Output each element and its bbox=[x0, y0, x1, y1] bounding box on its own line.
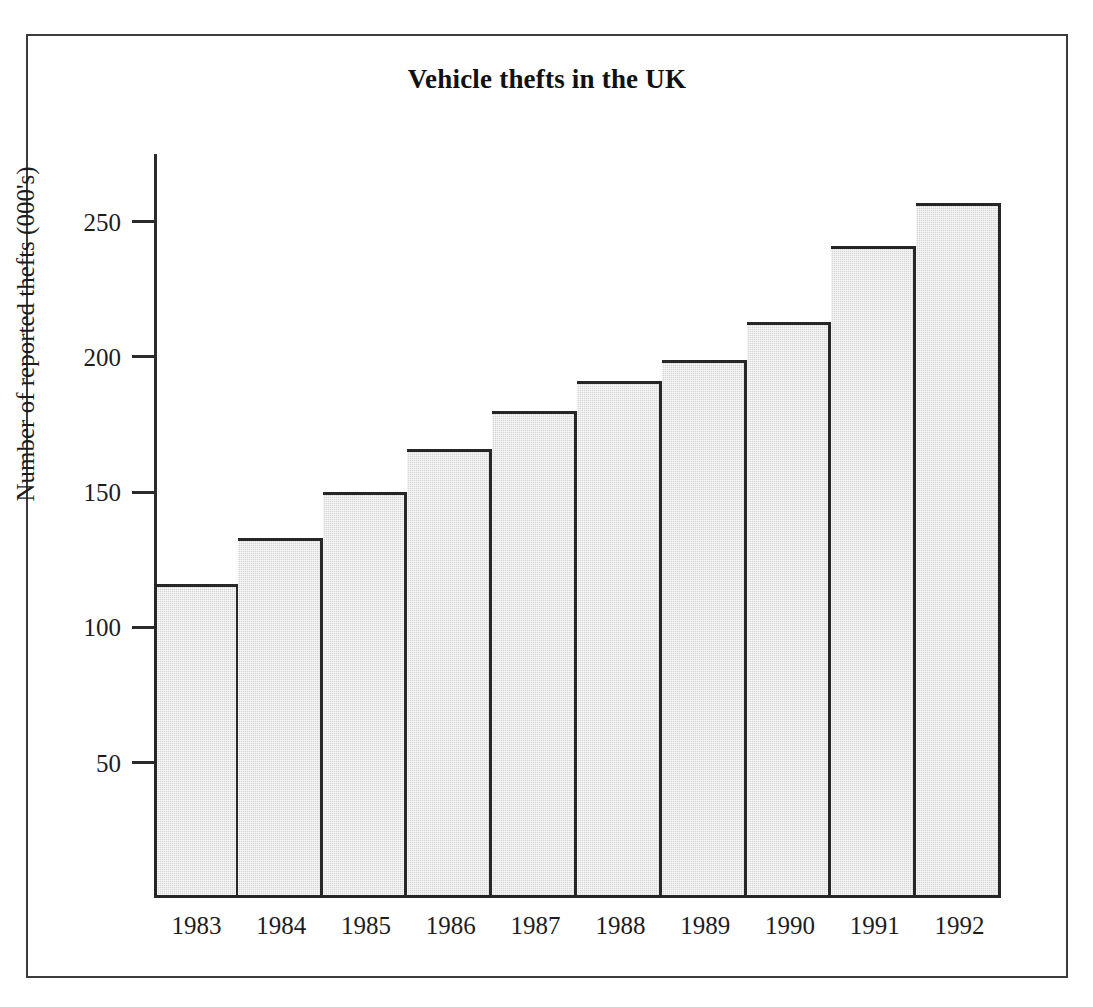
y-tick-250: 250 bbox=[132, 220, 154, 223]
y-tick-label: 250 bbox=[84, 209, 122, 234]
y-tick-100: 100 bbox=[132, 626, 154, 629]
bar-cell bbox=[663, 154, 748, 898]
x-label-1988: 1988 bbox=[578, 912, 663, 940]
x-label-1989: 1989 bbox=[663, 912, 748, 940]
bar-cell bbox=[578, 154, 663, 898]
bar-series bbox=[154, 154, 1002, 898]
y-tick-150: 150 bbox=[132, 491, 154, 494]
y-tick-label: 50 bbox=[96, 750, 121, 775]
bar-1991 bbox=[831, 246, 916, 898]
bar-cell bbox=[324, 154, 409, 898]
chart-frame: Vehicle thefts in the UK 50100150200250 … bbox=[26, 34, 1068, 978]
bar-1986 bbox=[407, 449, 492, 898]
x-label-1987: 1987 bbox=[493, 912, 578, 940]
plot-area: 50100150200250 bbox=[154, 154, 1002, 898]
y-tick-label: 100 bbox=[84, 615, 122, 640]
bar-cell bbox=[239, 154, 324, 898]
y-axis-title: Number of reported thefts (000's) bbox=[12, 24, 40, 644]
y-tick-50: 50 bbox=[132, 761, 154, 764]
x-label-1992: 1992 bbox=[917, 912, 1002, 940]
x-label-1983: 1983 bbox=[154, 912, 239, 940]
y-tick-200: 200 bbox=[132, 355, 154, 358]
bar-cell bbox=[748, 154, 833, 898]
bar-1988 bbox=[577, 381, 662, 898]
x-label-1985: 1985 bbox=[324, 912, 409, 940]
bar-cell bbox=[408, 154, 493, 898]
chart-title: Vehicle thefts in the UK bbox=[28, 64, 1066, 95]
y-tick-label: 200 bbox=[84, 344, 122, 369]
bar-1992 bbox=[916, 203, 1001, 898]
x-label-1991: 1991 bbox=[832, 912, 917, 940]
bar-1983 bbox=[154, 584, 239, 898]
x-label-1990: 1990 bbox=[748, 912, 833, 940]
bar-cell bbox=[493, 154, 578, 898]
bar-cell bbox=[154, 154, 239, 898]
bar-1987 bbox=[492, 411, 577, 898]
bar-1984 bbox=[238, 538, 323, 898]
bar-1985 bbox=[323, 492, 408, 898]
bar-cell bbox=[917, 154, 1002, 898]
x-label-1984: 1984 bbox=[239, 912, 324, 940]
bar-cell bbox=[832, 154, 917, 898]
x-axis-labels: 1983198419851986198719881989199019911992 bbox=[154, 912, 1002, 940]
bar-1990 bbox=[747, 322, 832, 898]
y-tick-label: 150 bbox=[84, 480, 122, 505]
x-label-1986: 1986 bbox=[408, 912, 493, 940]
bar-1989 bbox=[662, 360, 747, 898]
